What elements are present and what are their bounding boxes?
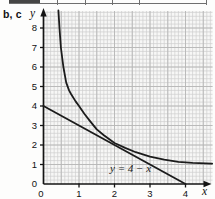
svg-text:2: 2	[112, 188, 117, 199]
svg-text:4: 4	[183, 188, 188, 199]
svg-text:1: 1	[32, 159, 37, 170]
svg-text:3: 3	[32, 120, 37, 131]
svg-text:7: 7	[32, 42, 37, 53]
line-equation-label: y = 4 − x	[110, 162, 151, 174]
y-axis-label: y	[30, 7, 35, 19]
svg-text:4: 4	[32, 100, 37, 111]
x-axis-label: x	[202, 185, 207, 197]
svg-text:6: 6	[32, 61, 37, 72]
svg-text:8: 8	[32, 22, 37, 33]
panel-label: b, c	[3, 8, 22, 20]
svg-text:3: 3	[147, 188, 152, 199]
svg-text:1: 1	[76, 188, 81, 199]
figure-panel: 01234567801234 b, c y x y = 4 − x	[0, 0, 215, 199]
svg-text:5: 5	[32, 81, 37, 92]
graph-canvas: 01234567801234	[0, 0, 215, 199]
svg-text:2: 2	[32, 139, 37, 150]
svg-text:0: 0	[38, 188, 43, 199]
svg-text:0: 0	[32, 178, 37, 189]
